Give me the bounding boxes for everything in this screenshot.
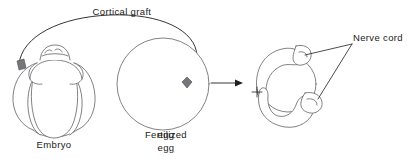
embryo-figure: [13, 45, 95, 138]
fertilized-egg-figure: [117, 38, 209, 130]
label-cortical-graft: Cortical graft: [93, 6, 152, 17]
nerve-cord-leader-upper: [305, 44, 352, 55]
nerve-cord-structure: [252, 45, 322, 127]
nerve-cord-lower-bulb: [301, 92, 322, 113]
development-arrow-head: [235, 80, 243, 87]
embryo-cortical-graft-marker: [17, 59, 26, 70]
fertilized-egg-circle: [117, 38, 209, 130]
nerve-cord-upper-bulb: [293, 45, 311, 65]
label-fertilized-egg-line2: egg: [158, 142, 175, 153]
label-embryo: Embryo: [37, 139, 72, 150]
diagram-canvas: Cortical graft Embryo egg Fertilized egg…: [0, 0, 412, 159]
label-fertilized-egg: Fertilized: [145, 129, 187, 140]
embryo-cap-top: [40, 45, 70, 60]
figure-container: Cortical graft Embryo egg Fertilized egg…: [0, 0, 412, 159]
label-nerve-cord: Nerve cord: [353, 32, 403, 43]
development-arrow: [211, 80, 243, 87]
nerve-cord-leader-lower: [318, 44, 352, 99]
